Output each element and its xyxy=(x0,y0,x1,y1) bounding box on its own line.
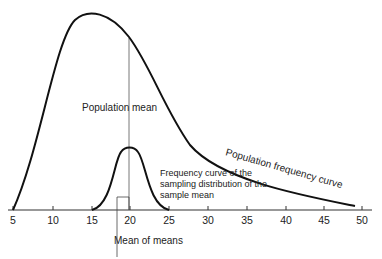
population-mean-label: Population mean xyxy=(82,102,157,113)
x-tick-labels: 5 10 15 20 25 30 35 40 45 50 xyxy=(10,214,368,226)
tick-label: 20 xyxy=(124,214,136,226)
tick-label: 10 xyxy=(47,214,59,226)
tick-label: 35 xyxy=(241,214,253,226)
sampling-curve-label-line3: sample mean xyxy=(160,190,214,200)
tick-label: 5 xyxy=(10,214,16,226)
chart-svg: 5 10 15 20 25 30 35 40 45 50 Population … xyxy=(0,0,382,259)
mean-of-means-pointer xyxy=(117,197,129,257)
tick-label: 25 xyxy=(163,214,175,226)
sampling-curve-label-line2: sampling distribution of the xyxy=(160,179,267,189)
mean-of-means-label: Mean of means xyxy=(114,235,183,246)
tick-label: 15 xyxy=(86,214,98,226)
sampling-distribution-curve xyxy=(92,148,169,211)
tick-label: 50 xyxy=(356,214,368,226)
chart-container: 5 10 15 20 25 30 35 40 45 50 Population … xyxy=(0,0,382,259)
tick-label: 30 xyxy=(202,214,214,226)
sampling-curve-label-line1: Frequency curve of the xyxy=(160,168,252,178)
tick-label: 40 xyxy=(280,214,292,226)
tick-label: 45 xyxy=(318,214,330,226)
